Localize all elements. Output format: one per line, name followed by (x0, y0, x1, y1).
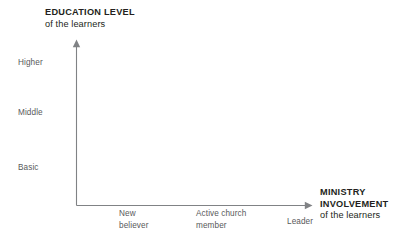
x-axis-title-bold-line1: MINISTRY (320, 187, 388, 199)
x-axis-title-bold-line2: INVOLVEMENT (320, 199, 388, 211)
y-axis-title: EDUCATION LEVEL of the learners (45, 7, 135, 30)
y-axis-tick-label-basic: Basic (18, 163, 39, 172)
y-axis-tick-label-higher: Higher (18, 58, 43, 67)
x-axis-title-subtitle: of the learners (320, 210, 388, 222)
x-axis-tick-label-new-believer-line1: New (119, 208, 148, 220)
x-axis-tick-label-new-believer: New believer (119, 208, 148, 231)
y-axis-title-bold: EDUCATION LEVEL (45, 7, 135, 19)
y-axis-title-subtitle: of the learners (45, 19, 135, 31)
x-axis-arrowhead (305, 202, 313, 209)
x-axis-tick-label-active-church-member-line1: Active church (196, 208, 246, 220)
x-axis-title: MINISTRY INVOLVEMENT of the learners (320, 187, 388, 222)
y-axis-tick-label-middle: Middle (18, 108, 43, 117)
x-axis-tick-label-new-believer-line2: believer (119, 220, 148, 232)
diagram-canvas: EDUCATION LEVEL of the learners MINISTRY… (0, 0, 411, 247)
x-axis-tick-label-leader: Leader (287, 216, 313, 228)
x-axis-tick-label-active-church-member: Active church member (196, 208, 246, 231)
x-axis-tick-label-leader-line1: Leader (287, 216, 313, 228)
x-axis-tick-label-active-church-member-line2: member (196, 220, 246, 232)
y-axis-arrowhead (73, 40, 80, 48)
